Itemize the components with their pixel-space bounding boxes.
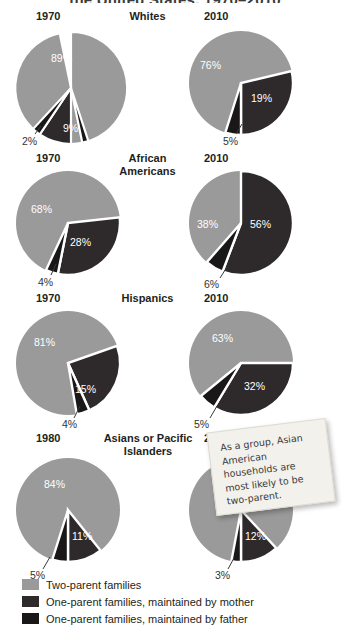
legend-swatch-father: [22, 613, 39, 624]
group-name: Asians or Pacific Islanders: [88, 432, 208, 458]
pie-svg: [8, 457, 138, 577]
pie-chart-african-americans-1970[interactable]: 68% 28% 4%: [8, 170, 138, 290]
pie-chart-whites-1970[interactable]: 89% 9% 2%: [8, 30, 138, 150]
slice-label-mother: 28%: [70, 236, 91, 248]
year-label-right: 2010: [204, 292, 228, 304]
slice-label-father: 2%: [22, 135, 37, 147]
sticky-note-text: As a group, Asian American households ar…: [219, 429, 324, 508]
pie-svg: [178, 170, 308, 290]
year-label-right: 2010: [204, 10, 228, 22]
pie-chart-asians-1980[interactable]: 84% 11% 5%: [8, 457, 138, 577]
pie-svg: [178, 30, 308, 150]
group-name-line-1: African: [129, 152, 167, 164]
slice-label-mother: 32%: [244, 380, 265, 392]
slice-label-two-parent: 38%: [197, 218, 218, 230]
group-name: Whites: [95, 10, 200, 23]
slice-label-two-parent: 76%: [200, 59, 221, 71]
year-label-right: 2010: [204, 152, 228, 164]
page-title: the United States, 1970–2010: [0, 0, 350, 3]
group-name-line-1: Asians or Pacific: [104, 432, 193, 444]
pie-svg: [8, 310, 138, 430]
slice-label-mother: 12%: [245, 530, 266, 542]
slice-label-two-parent: 84%: [44, 478, 65, 490]
legend-label: Two-parent families: [46, 579, 141, 591]
legend-label: One-parent families, maintained by mothe…: [46, 596, 254, 608]
pie-chart-hispanics-2010[interactable]: 63% 32% 5%: [178, 310, 308, 430]
group-name: Hispanics: [95, 292, 200, 305]
year-label-left: 1970: [36, 292, 60, 304]
pie-chart-hispanics-1970[interactable]: 81% 15% 4%: [8, 310, 138, 430]
slice-label-mother: 19%: [251, 92, 272, 104]
legend-swatch-mother: [22, 596, 39, 607]
group-name-line-2: Islanders: [124, 445, 172, 457]
slice-label-mother: 15%: [75, 383, 96, 395]
legend-label: One-parent families, maintained by fathe…: [46, 613, 248, 625]
chart-group-whites: 1970 Whites 2010 89% 9% 2% 76% 19%: [0, 10, 350, 40]
legend: Two-parent families One-parent families,…: [22, 576, 342, 625]
year-label-left: 1980: [36, 432, 60, 444]
year-label-left: 1970: [36, 152, 60, 164]
year-label-left: 1970: [36, 10, 60, 22]
slice-label-father: 5%: [223, 135, 238, 147]
legend-item-two-parent: Two-parent families: [22, 576, 342, 593]
pie-chart-whites-2010[interactable]: 76% 19% 5%: [178, 30, 308, 150]
slice-label-father: 4%: [38, 276, 53, 288]
pie-chart-african-americans-2010[interactable]: 38% 56% 6%: [178, 170, 308, 290]
legend-item-mother: One-parent families, maintained by mothe…: [22, 593, 342, 610]
slice-label-mother: 56%: [250, 218, 271, 230]
pie-svg: [178, 310, 308, 430]
slice-label-mother: 11%: [72, 530, 92, 542]
slice-label-father: 5%: [194, 418, 209, 430]
slice-label-two-parent: 68%: [31, 203, 52, 215]
slice-label-father: 4%: [62, 418, 77, 430]
pie-svg: [8, 170, 138, 290]
slice-label-two-parent: 81%: [34, 336, 55, 348]
legend-swatch-two-parent: [22, 579, 39, 590]
slice-label-father: 6%: [204, 278, 219, 290]
legend-item-father: One-parent families, maintained by fathe…: [22, 610, 342, 625]
slice-label-mother: 9%: [63, 122, 78, 134]
slice-label-two-parent: 63%: [212, 332, 233, 344]
slice-label-two-parent: 89%: [51, 52, 72, 64]
sticky-note: As a group, Asian American households ar…: [206, 418, 335, 516]
chart-group-african-americans: 1970 African Americans 2010 68% 28% 4%: [0, 152, 350, 182]
chart-group-hispanics: 1970 Hispanics 2010 81% 15% 4% 63% 32% 5: [0, 292, 350, 322]
